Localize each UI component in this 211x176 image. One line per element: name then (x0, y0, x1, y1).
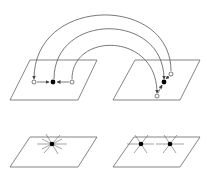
plane-top-right (113, 60, 200, 100)
arc-middle (54, 29, 164, 79)
open-point-icon (70, 80, 74, 84)
plane-top-left (10, 60, 97, 100)
plane-bottom-right (113, 135, 200, 167)
diagram-canvas (0, 0, 211, 176)
open-point-icon (169, 72, 173, 76)
star-point-icon (156, 135, 184, 153)
filled-point-icon (51, 80, 56, 85)
plane-bottom-left (10, 134, 97, 167)
open-point-icon (155, 94, 159, 98)
star-point-icon (127, 135, 154, 153)
filled-point-icon (162, 80, 167, 85)
open-point-icon (32, 80, 36, 84)
